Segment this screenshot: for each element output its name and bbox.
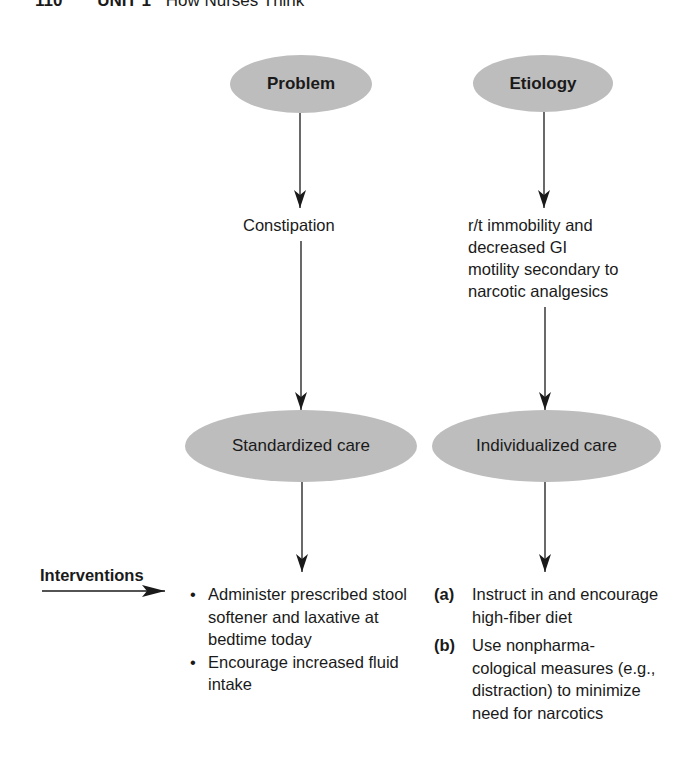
arrow-individualized-to-interventions xyxy=(539,482,551,572)
etiology-line: narcotic analgesics xyxy=(468,280,618,302)
item-marker: (b) xyxy=(434,634,455,657)
arrow-etiology-to-individualized xyxy=(539,307,551,410)
list-item: (a) Instruct in and encourage high-fiber… xyxy=(434,583,662,628)
individualized-care-label: Individualized care xyxy=(476,436,617,456)
etiology-text: r/t immobility and decreased GI motility… xyxy=(468,214,618,302)
page-header: 110 UNIT 1 How Nurses Think xyxy=(35,0,304,11)
list-item: • Administer prescribed stool softener a… xyxy=(190,583,410,651)
intervention-text: Use nonpharma-cological measures (e.g., … xyxy=(472,636,655,722)
list-item: • Encourage increased fluid intake xyxy=(190,651,410,696)
bullet-icon: • xyxy=(190,651,196,674)
list-item: (b) Use nonpharma-cological measures (e.… xyxy=(434,634,657,724)
standardized-care-label: Standardized care xyxy=(232,436,370,456)
etiology-line: decreased GI xyxy=(468,236,618,258)
individualized-interventions-list: (a) Instruct in and encourage high-fiber… xyxy=(434,583,694,730)
bullet-icon: • xyxy=(190,583,196,606)
arrow-constipation-to-standardized xyxy=(295,241,307,410)
interventions-label: Interventions xyxy=(40,566,144,585)
intervention-text: Instruct in and encourage high-fiber die… xyxy=(472,585,658,626)
page-number: 110 xyxy=(35,0,62,10)
problem-node: Problem xyxy=(230,55,372,113)
etiology-node-label: Etiology xyxy=(509,74,576,94)
standardized-care-node: Standardized care xyxy=(185,410,417,482)
etiology-line: motility secondary to xyxy=(468,258,618,280)
intervention-text: Encourage increased fluid intake xyxy=(208,653,399,694)
arrow-interventions xyxy=(42,585,165,597)
problem-node-label: Problem xyxy=(267,74,335,94)
standardized-interventions-list: • Administer prescribed stool softener a… xyxy=(190,583,410,696)
etiology-node: Etiology xyxy=(473,55,613,112)
arrow-etiology-to-text xyxy=(538,112,550,208)
chapter-title: How Nurses Think xyxy=(166,0,305,10)
arrow-problem-to-constipation xyxy=(294,113,306,208)
problem-text: Constipation xyxy=(243,214,335,236)
individualized-care-node: Individualized care xyxy=(432,410,661,482)
item-marker: (a) xyxy=(434,583,454,606)
arrow-standardized-to-interventions xyxy=(296,482,308,572)
etiology-line: r/t immobility and xyxy=(468,214,618,236)
unit-label: UNIT 1 xyxy=(97,0,151,10)
intervention-text: Administer prescribed stool softener and… xyxy=(208,585,407,648)
